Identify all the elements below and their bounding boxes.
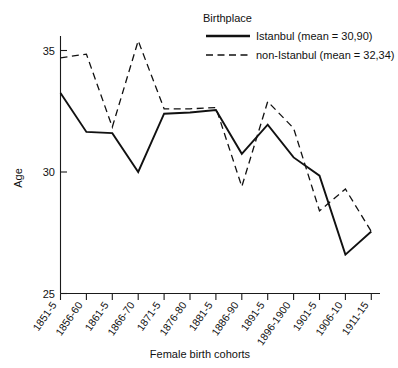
x-tick-label-1: 1856-60 [53,299,85,338]
series-group [61,41,372,255]
x-tick-labels-group: 1851-5 1856-60 1861-5 1866-70 1871-5 187… [30,299,371,347]
legend-label-non-istanbul: non-Istanbul (mean = 32,34) [256,49,395,61]
chart-svg: 35 30 25 Age 1851-5 1856-60 [0,0,398,368]
axes-group [61,36,381,294]
legend-label-istanbul: Istanbul (mean = 30,90) [256,30,373,42]
x-axis-title: Female birth cohorts [150,348,251,360]
line-chart: 35 30 25 Age 1851-5 1856-60 [0,0,398,368]
legend-title: Birthplace [203,12,252,24]
legend: Birthplace Istanbul (mean = 30,90) non-I… [203,12,395,61]
y-tick-label-25: 25 [43,288,55,300]
x-ticks-group [61,294,372,301]
series-line-istanbul [61,93,372,255]
x-tick-label-12: 1911-15 [339,299,371,337]
y-axis-title: Age [12,168,24,188]
series-line-non-istanbul [61,41,372,232]
x-tick-label-5: 1876-80 [157,299,189,338]
x-tick-label-7: 1886-90 [209,299,241,338]
y-ticks-group: 35 30 25 [43,45,67,300]
x-tick-label-3: 1866-70 [105,299,137,338]
y-tick-label-30: 30 [43,166,55,178]
y-tick-label-35: 35 [43,45,55,57]
